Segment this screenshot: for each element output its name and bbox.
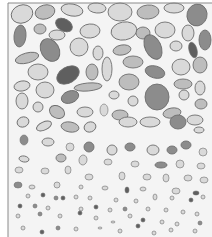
- grain: [181, 141, 191, 149]
- grain: [134, 199, 138, 203]
- grain: [28, 64, 48, 80]
- grain: [172, 59, 190, 75]
- grain: [181, 210, 185, 214]
- grain: [187, 115, 203, 125]
- grain: [119, 117, 137, 127]
- grain: [184, 175, 192, 181]
- grain: [79, 207, 83, 211]
- grain: [109, 91, 119, 99]
- grain: [56, 226, 60, 230]
- grain: [195, 81, 205, 95]
- grain: [172, 188, 180, 194]
- grain: [49, 30, 65, 40]
- grain: [93, 46, 103, 60]
- grain: [41, 193, 45, 197]
- grain: [54, 182, 60, 188]
- grain: [114, 198, 118, 202]
- grain: [123, 56, 143, 68]
- grain: [141, 218, 145, 222]
- grain: [107, 145, 117, 155]
- grain: [88, 196, 92, 200]
- grain: [34, 24, 46, 34]
- grain: [140, 117, 160, 127]
- grain: [140, 187, 146, 191]
- grain: [56, 154, 66, 162]
- grain: [128, 96, 138, 106]
- grain: [15, 167, 23, 173]
- grain: [21, 226, 25, 230]
- grain: [136, 224, 140, 228]
- grain: [84, 142, 94, 152]
- grain: [119, 74, 139, 90]
- grain: [201, 195, 205, 199]
- grain: [102, 186, 108, 190]
- grain: [77, 107, 93, 117]
- grain: [182, 25, 194, 41]
- grain: [26, 194, 30, 198]
- grain: [193, 57, 207, 73]
- grain: [40, 230, 44, 234]
- grain: [74, 227, 78, 231]
- grain: [61, 196, 65, 200]
- grain: [131, 161, 139, 167]
- grain: [164, 3, 184, 13]
- grain: [111, 221, 115, 223]
- grain: [167, 146, 177, 154]
- grain: [94, 216, 98, 220]
- grain: [193, 229, 197, 233]
- grain: [179, 90, 189, 100]
- grain: [164, 208, 168, 212]
- grain: [128, 214, 132, 218]
- grain: [108, 208, 112, 212]
- grain: [155, 162, 167, 168]
- grain: [170, 196, 174, 200]
- grain: [163, 174, 169, 182]
- grain: [16, 214, 20, 218]
- grain: [98, 227, 102, 229]
- grain: [147, 145, 159, 155]
- grain: [54, 196, 58, 200]
- grain: [33, 204, 37, 208]
- grain: [100, 104, 108, 116]
- grain: [29, 185, 35, 189]
- grain: [145, 84, 169, 110]
- grain: [58, 214, 62, 218]
- grain: [195, 212, 199, 216]
- grain: [193, 191, 199, 195]
- grain: [195, 99, 207, 109]
- grain: [174, 79, 192, 89]
- grain: [33, 102, 43, 112]
- grain: [70, 38, 88, 56]
- grain: [66, 143, 74, 151]
- grain: [79, 185, 83, 189]
- grain: [18, 204, 22, 208]
- grain: [194, 127, 204, 133]
- sediment-cross-section: [0, 0, 212, 237]
- graded-bedding-diagram: [0, 0, 212, 237]
- grain: [16, 93, 28, 109]
- grain: [155, 22, 175, 38]
- grain: [78, 211, 82, 215]
- grain: [170, 41, 182, 51]
- grain: [20, 135, 28, 145]
- grain: [197, 163, 205, 169]
- grain: [94, 205, 98, 209]
- grain: [176, 160, 184, 168]
- grain: [65, 166, 71, 174]
- grain: [198, 221, 202, 225]
- grain: [200, 177, 208, 183]
- grain: [189, 198, 193, 202]
- grain: [199, 148, 207, 156]
- grain: [74, 195, 78, 199]
- grain: [199, 30, 211, 50]
- grain: [46, 206, 50, 210]
- grain: [85, 174, 93, 180]
- grain: [14, 182, 22, 188]
- grain: [123, 207, 127, 211]
- grain: [118, 229, 122, 233]
- grain: [41, 168, 49, 174]
- grain: [36, 82, 54, 98]
- grain: [153, 194, 157, 200]
- grain: [169, 228, 173, 232]
- grain: [86, 64, 98, 80]
